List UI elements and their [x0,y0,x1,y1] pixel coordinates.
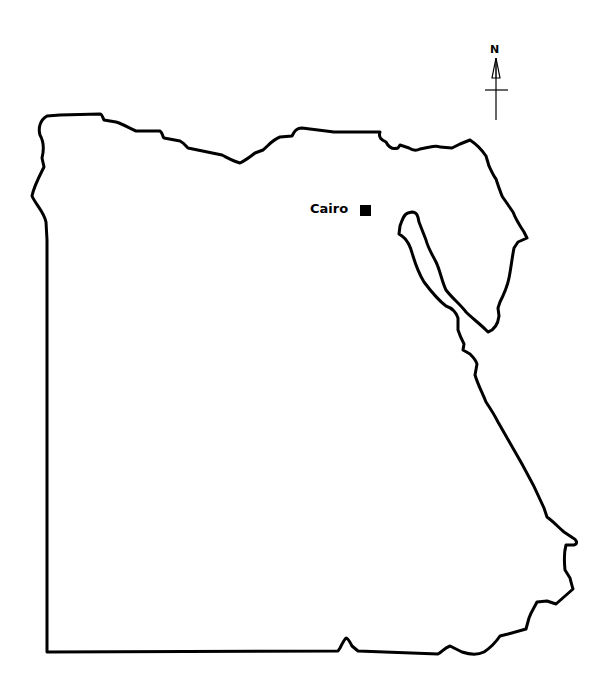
city-label-cairo: Cairo [310,201,348,216]
north-label: N [490,43,499,56]
north-arrow-icon [485,58,508,120]
city-marker-cairo [360,205,371,216]
egypt-map [0,0,613,700]
country-outline [32,114,577,654]
